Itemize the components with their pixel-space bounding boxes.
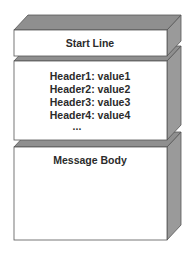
message-body-block: Message Body xyxy=(14,132,181,240)
start-line-top-face xyxy=(14,15,181,30)
message-body-side-face xyxy=(167,132,181,240)
start-line-label: Start Line xyxy=(66,37,115,49)
header-line-2: Header2: value2 xyxy=(50,83,131,95)
header-line-1: Header1: value1 xyxy=(50,70,131,82)
header-ellipsis: ... xyxy=(73,120,82,132)
message-body-label: Message Body xyxy=(53,154,127,166)
headers-block: Header1: value1 Header2: value2 Header3:… xyxy=(14,46,181,140)
http-message-diagram: Message Body Header1: value1 Header2: va… xyxy=(0,0,194,253)
start-line-block: Start Line xyxy=(14,15,181,56)
headers-side-face xyxy=(167,46,181,140)
header-line-4: Header4: value4 xyxy=(50,109,131,121)
header-line-3: Header3: value3 xyxy=(50,96,131,108)
